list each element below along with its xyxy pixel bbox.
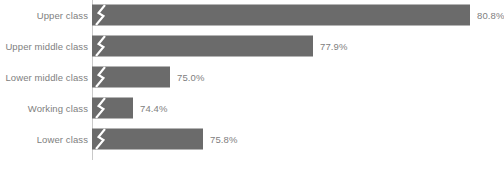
baseline-rule	[0, 164, 504, 165]
axis-break-zigzag-icon	[93, 98, 109, 119]
bar-container[interactable]: 77.9%	[92, 36, 313, 57]
category-label: Upper middle class	[5, 41, 88, 52]
value-label: 75.8%	[210, 134, 237, 145]
bar-container[interactable]: 75.0%	[92, 67, 170, 88]
bar-container[interactable]: 80.8%	[92, 5, 470, 26]
bar[interactable]	[92, 98, 133, 119]
axis-break-zigzag-icon	[93, 5, 109, 26]
bar[interactable]	[92, 67, 170, 88]
bar[interactable]	[92, 129, 203, 150]
bar-row[interactable]: Upper middle class 77.9%	[0, 31, 504, 61]
plot-area: Upper class 80.8% Upper middle class	[0, 0, 504, 171]
bar[interactable]	[92, 36, 313, 57]
bar-row[interactable]: Working class 74.4%	[0, 93, 504, 123]
bar[interactable]	[92, 5, 470, 26]
value-label: 80.8%	[477, 10, 504, 21]
bar-row[interactable]: Lower class 75.8%	[0, 124, 504, 154]
value-label: 75.0%	[177, 72, 204, 83]
axis-break-zigzag-icon	[93, 129, 109, 150]
axis-break-zigzag-icon	[93, 36, 109, 57]
axis-break-zigzag-icon	[93, 67, 109, 88]
category-label: Lower class	[37, 134, 88, 145]
category-label: Working class	[28, 103, 88, 114]
bar-row[interactable]: Upper class 80.8%	[0, 0, 504, 30]
category-label: Lower middle class	[5, 72, 88, 83]
value-label: 74.4%	[140, 103, 167, 114]
value-label: 77.9%	[320, 41, 347, 52]
bar-row[interactable]: Lower middle class 75.0%	[0, 62, 504, 92]
bar-container[interactable]: 75.8%	[92, 129, 203, 150]
bar-container[interactable]: 74.4%	[92, 98, 133, 119]
bar-chart: Upper class 80.8% Upper middle class	[0, 0, 504, 171]
category-label: Upper class	[37, 10, 88, 21]
